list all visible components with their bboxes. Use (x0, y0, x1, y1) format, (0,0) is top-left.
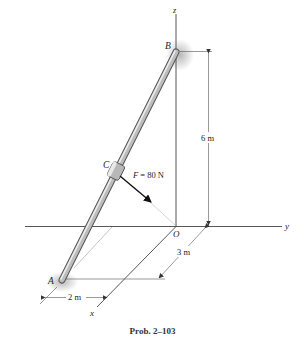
rod-force-diagram: y z x O 6 m 3 m 2 m B C A F = 80 N Prob.… (0, 0, 305, 344)
force-symbol: F (132, 170, 139, 180)
dim-2m-label: 2 m (68, 292, 81, 302)
figure-caption: Prob. 2–103 (130, 326, 176, 336)
x-axis-label: x (89, 308, 94, 318)
y-axis-label: y (284, 221, 289, 231)
dim-3m-label: 3 m (177, 247, 190, 257)
z-axis-label: z (172, 6, 177, 15)
force-value: = 80 N (140, 170, 164, 180)
origin-label: O (173, 229, 180, 239)
force-label: F = 80 N (132, 170, 164, 180)
point-a-label: A (47, 276, 54, 286)
dim-6m-label: 6 m (201, 133, 214, 143)
point-c-label: C (103, 160, 110, 170)
x-axis (97, 227, 176, 308)
point-b-label: B (165, 41, 171, 51)
dim-2m-ext-left (40, 287, 57, 304)
force-line-of-action (150, 202, 176, 226)
